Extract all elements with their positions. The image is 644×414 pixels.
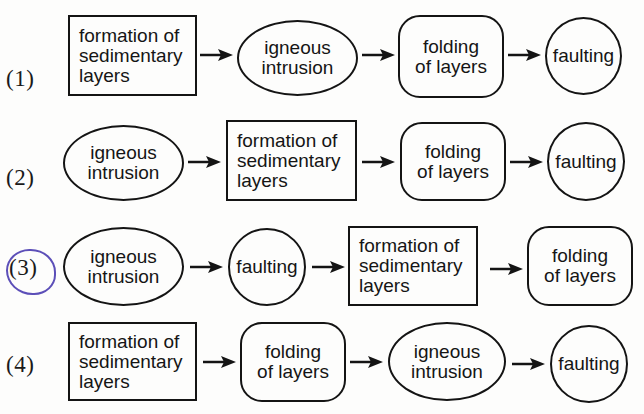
node-formation-of-sedimentary-layers: formation of sedimentary layers — [226, 120, 357, 201]
option-label-4: (4) — [6, 352, 34, 378]
node-text-line: intrusion — [88, 267, 160, 287]
node-formation-of-sedimentary-layers: formation of sedimentary layers — [68, 322, 197, 401]
node-text-line: faulting — [236, 257, 297, 277]
node-text-line: layers — [79, 66, 183, 86]
node-text-line: folding — [415, 37, 487, 57]
node-text-line: faulting — [558, 354, 619, 374]
node-text-line: formation of — [237, 131, 341, 151]
arrow-right-icon — [362, 155, 396, 169]
arrow-right-icon — [490, 262, 524, 276]
node-text-line: intrusion — [88, 163, 160, 183]
node-igneous-intrusion: igneous intrusion — [63, 227, 184, 306]
node-folding-of-layers: folding of layers — [527, 226, 633, 306]
option-label-1: (1) — [6, 66, 34, 92]
node-text-line: folding — [257, 342, 329, 362]
option-label-2: (2) — [6, 165, 34, 191]
arrow-right-icon — [312, 260, 346, 274]
node-text-line: of layers — [417, 162, 489, 182]
node-igneous-intrusion: igneous intrusion — [388, 322, 506, 401]
node-folding-of-layers: folding of layers — [398, 15, 504, 98]
node-faulting: faulting — [545, 17, 622, 95]
node-text-line: of layers — [544, 266, 616, 286]
node-faulting: faulting — [550, 325, 628, 403]
node-text-line: formation of — [359, 236, 463, 256]
diagram-page: (1) formation of sedimentary layers igne… — [0, 0, 644, 414]
arrow-right-icon — [350, 355, 384, 369]
node-folding-of-layers: folding of layers — [400, 122, 506, 201]
node-igneous-intrusion: igneous intrusion — [63, 125, 184, 201]
node-text-line: intrusion — [411, 362, 483, 382]
node-text-line: intrusion — [262, 58, 334, 78]
node-text-line: of layers — [257, 362, 329, 382]
node-text-line: folding — [544, 246, 616, 266]
node-text-line: layers — [79, 372, 183, 392]
arrow-right-icon — [512, 357, 546, 371]
node-text-line: layers — [359, 276, 463, 296]
node-text-line: sedimentary — [237, 151, 341, 171]
node-formation-of-sedimentary-layers: formation of sedimentary layers — [348, 226, 478, 306]
node-folding-of-layers: folding of layers — [240, 322, 346, 402]
node-text-line: faulting — [555, 152, 616, 172]
node-text-line: sedimentary — [79, 352, 183, 372]
option-label-3: (3) — [9, 255, 37, 281]
node-text-line: igneous — [88, 247, 160, 267]
node-text-line: layers — [237, 171, 341, 191]
arrow-right-icon — [510, 155, 544, 169]
node-text-line: formation of — [79, 332, 183, 352]
node-text-line: igneous — [262, 38, 334, 58]
node-text-line: igneous — [411, 342, 483, 362]
node-text-line: igneous — [88, 143, 160, 163]
node-faulting: faulting — [228, 228, 306, 306]
node-text-line: faulting — [553, 46, 614, 66]
arrow-right-icon — [190, 260, 224, 274]
node-faulting: faulting — [547, 122, 625, 201]
arrow-right-icon — [508, 48, 542, 62]
node-formation-of-sedimentary-layers: formation of sedimentary layers — [68, 15, 197, 96]
node-text-line: sedimentary — [79, 46, 183, 66]
node-igneous-intrusion: igneous intrusion — [237, 20, 358, 96]
arrow-right-icon — [188, 155, 222, 169]
node-text-line: of layers — [415, 57, 487, 77]
arrow-right-icon — [200, 48, 234, 62]
node-text-line: folding — [417, 142, 489, 162]
arrow-right-icon — [362, 48, 396, 62]
node-text-line: sedimentary — [359, 256, 463, 276]
arrow-right-icon — [203, 355, 237, 369]
node-text-line: formation of — [79, 26, 183, 46]
